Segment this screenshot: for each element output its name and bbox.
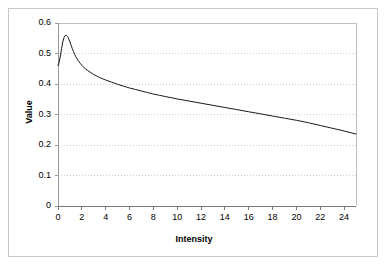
y-axis-tick-label: 0.2 [38,139,51,149]
y-axis-tick-label: 0.3 [38,109,51,119]
y-axis-tick-label: 0.4 [38,78,51,88]
x-axis-tick-label: 24 [329,212,359,222]
y-axis-tick-label: 0.1 [38,170,51,180]
y-axis-tick-label: 0 [46,200,51,210]
y-axis-title: Value [24,82,34,142]
x-axis-title: Intensity [9,234,379,244]
chart-plot-region: 00.10.20.30.40.50.6 02468101214161820222… [9,9,377,256]
plot-background [58,23,356,206]
figure-container: 00.10.20.30.40.50.6 02468101214161820222… [0,0,386,277]
y-axis-tick-label: 0.6 [38,17,51,27]
y-axis-tick-label: 0.5 [38,48,51,58]
chart-frame: 00.10.20.30.40.50.6 02468101214161820222… [8,8,378,257]
